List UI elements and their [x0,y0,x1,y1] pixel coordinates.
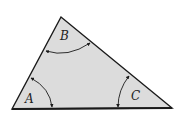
angle-a-label: A [24,92,34,106]
angle-b-label: B [59,29,69,43]
triangle-shape [12,17,172,109]
triangle-diagram: A B C [0,0,190,113]
angle-c-label: C [131,89,140,103]
triangle-base [12,108,172,109]
